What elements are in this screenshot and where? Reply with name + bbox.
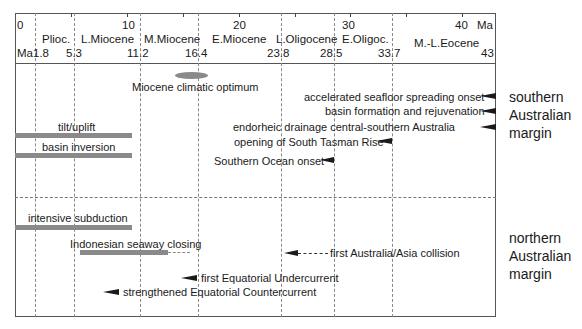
arrow-left-icon (103, 289, 119, 295)
collision-dashed-line (298, 253, 328, 254)
tick-40 (462, 13, 463, 17)
axis-unit-top: Ma (477, 19, 493, 31)
boundary-label: 28.5 (320, 47, 342, 59)
tilt-uplift-bar (15, 133, 132, 138)
tick-label: 10 (122, 19, 135, 31)
miocene-optimum-ellipse (175, 72, 208, 79)
epoch-label: M.-L.Eocene (414, 37, 479, 49)
arrow-left-icon (480, 108, 496, 114)
epoch-label: L.Oligocene (276, 33, 337, 45)
arrow-left-icon (181, 275, 197, 281)
boundary-label: 1.8 (33, 47, 49, 59)
event-label: strengthened Equatorial Countercurrent (123, 286, 316, 298)
event-label: Indonesian seaway closing (70, 238, 201, 250)
boundary-label: 11.2 (127, 47, 149, 59)
tick-15 (183, 13, 184, 17)
seaway-closing-bar (80, 250, 168, 255)
tick-5 (71, 13, 72, 17)
tick-35 (406, 13, 407, 17)
event-label: intensive subduction (28, 212, 128, 224)
event-label: basin formation and rejuvenation (325, 105, 485, 117)
arrow-left-icon (284, 250, 298, 256)
epoch-label: L.Miocene (81, 33, 134, 45)
event-label: first Equatorial Undercurrent (201, 272, 339, 284)
event-label: endorheic drainage central-southern Aust… (233, 121, 455, 133)
epoch-label: E.Oligoc. (342, 33, 389, 45)
axis-unit-bottom: Ma (17, 47, 33, 59)
region-divider (15, 197, 496, 198)
epoch-label: M.Miocene (144, 33, 200, 45)
event-label: Southern Ocean onset (214, 155, 324, 167)
tick-30 (350, 13, 351, 17)
tick-label: 20 (233, 19, 246, 31)
epoch-label: E.Miocene (212, 33, 266, 45)
boundary-label: 5.3 (66, 47, 82, 59)
event-label: accelerated seafloor spreading onset (304, 91, 484, 103)
basin-inversion-bar (15, 153, 132, 158)
event-label: basin inversion (42, 141, 115, 153)
arrow-left-icon (320, 157, 334, 163)
tick-25 (295, 13, 296, 17)
tick-10 (127, 13, 128, 17)
boundary-label: 33.7 (378, 47, 400, 59)
event-label: opening of South Tasman Rise (234, 136, 384, 148)
arrow-left-icon (376, 138, 392, 144)
event-label: tilt/uplift (58, 121, 95, 133)
epoch-label: Plioc. (42, 33, 70, 45)
seaway-dashed-extension (168, 252, 190, 253)
header-divider (15, 63, 496, 64)
tick-label: 30 (342, 19, 355, 31)
boundary-label: 23.8 (267, 47, 289, 59)
tick-label: 40 (455, 19, 468, 31)
arrow-left-icon (480, 124, 496, 130)
arrow-left-icon (480, 93, 496, 99)
boundary-label: 43 (481, 47, 494, 59)
boundary-label: 16.4 (185, 47, 207, 59)
region-label-northern: northern Australian margin (509, 229, 571, 283)
tick-label: 0 (17, 19, 23, 31)
event-label: first Australia/Asia collision (330, 247, 460, 259)
intensive-subduction-bar (15, 225, 132, 230)
region-label-southern: southern Australian margin (509, 88, 571, 142)
event-label: Miocene climatic optimum (132, 81, 259, 93)
tick-20 (239, 13, 240, 17)
